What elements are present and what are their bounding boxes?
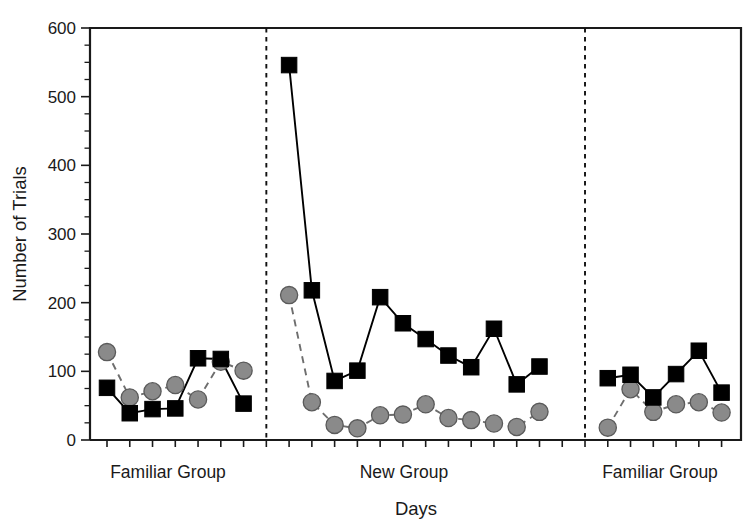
y-tick-label: 600 <box>48 19 76 38</box>
data-point-square <box>623 367 639 383</box>
y-tick-label: 300 <box>48 225 76 244</box>
data-point-square <box>327 373 343 389</box>
data-point-square <box>281 57 297 73</box>
x-axis-title: Days <box>395 498 437 519</box>
data-point-circle <box>622 381 639 398</box>
data-point-circle <box>440 409 457 426</box>
data-point-square <box>190 351 206 367</box>
data-point-circle <box>280 287 297 304</box>
data-point-square <box>236 396 252 412</box>
data-point-square <box>145 401 161 417</box>
data-point-square <box>213 351 229 367</box>
y-tick-label: 0 <box>67 431 76 450</box>
y-tick-label: 200 <box>48 294 76 313</box>
data-point-square <box>441 348 457 364</box>
data-point-square <box>122 405 138 421</box>
data-point-circle <box>167 376 184 393</box>
data-point-circle <box>417 396 434 413</box>
data-point-circle <box>485 415 502 432</box>
data-point-circle <box>713 404 730 421</box>
data-point-circle <box>508 418 525 435</box>
data-point-square <box>714 385 730 401</box>
phase-label-familiar-left: Familiar Group <box>110 462 226 482</box>
data-point-square <box>532 359 548 375</box>
data-point-square <box>600 370 616 386</box>
data-point-circle <box>189 391 206 408</box>
chart-background <box>0 0 753 525</box>
data-point-circle <box>349 420 366 437</box>
y-tick-label: 100 <box>48 362 76 381</box>
data-point-circle <box>372 407 389 424</box>
data-point-circle <box>667 396 684 413</box>
data-point-circle <box>463 411 480 428</box>
data-point-circle <box>326 416 343 433</box>
data-point-square <box>372 289 388 305</box>
y-tick-label: 400 <box>48 156 76 175</box>
data-point-circle <box>121 389 138 406</box>
data-point-square <box>395 316 411 332</box>
data-point-square <box>486 321 502 337</box>
y-axis-title: Number of Trials <box>9 166 30 302</box>
data-point-square <box>646 390 662 406</box>
data-point-square <box>463 359 479 375</box>
data-point-square <box>99 380 115 396</box>
data-point-square <box>304 283 320 299</box>
phase-label-new: New Group <box>360 462 449 482</box>
data-point-square <box>350 363 366 379</box>
data-point-circle <box>98 344 115 361</box>
data-point-circle <box>394 406 411 423</box>
phase-label-familiar-right: Familiar Group <box>602 462 718 482</box>
data-point-square <box>418 331 434 347</box>
data-point-square <box>668 366 684 382</box>
data-point-square <box>168 401 184 417</box>
y-tick-label: 500 <box>48 88 76 107</box>
data-point-circle <box>599 419 616 436</box>
data-point-circle <box>531 403 548 420</box>
data-point-circle <box>645 403 662 420</box>
data-point-circle <box>235 362 252 379</box>
data-point-circle <box>144 383 161 400</box>
chart-root: 0100200300400500600 Number of Trials Day… <box>0 0 753 525</box>
data-point-square <box>691 343 707 359</box>
data-point-circle <box>690 394 707 411</box>
trials-per-day-line-chart: 0100200300400500600 Number of Trials Day… <box>0 0 753 525</box>
data-point-circle <box>303 394 320 411</box>
data-point-square <box>509 377 525 393</box>
